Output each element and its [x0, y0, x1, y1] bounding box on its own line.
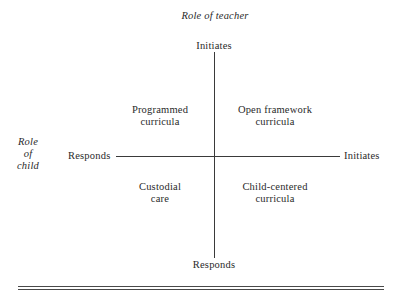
quadrant-top-left-line1: Programmed [120, 104, 200, 116]
vertical-axis-line [214, 52, 215, 258]
quadrant-top-right: Open framework curricula [225, 104, 325, 128]
quadrant-top-right-line1: Open framework [225, 104, 325, 116]
horizontal-axis-line [116, 156, 340, 157]
double-rule-bottom [18, 289, 384, 290]
quadrant-bottom-right-line1: Child-centered [225, 181, 325, 193]
quadrant-bottom-left-line2: care [120, 193, 200, 205]
quadrant-bottom-left: Custodial care [120, 181, 200, 205]
child-role-title-line2: of [8, 148, 48, 160]
horizontal-axis-right-label: Initiates [344, 150, 380, 162]
teacher-role-title: Role of teacher [150, 10, 280, 22]
quadrant-top-right-line2: curricula [225, 116, 325, 128]
child-role-title-line3: child [8, 160, 48, 172]
quadrant-bottom-right-line2: curricula [225, 193, 325, 205]
child-role-title-line1: Role [8, 136, 48, 148]
child-role-title: Role of child [8, 136, 48, 172]
quadrant-bottom-right: Child-centered curricula [225, 181, 325, 205]
quadrant-top-left: Programmed curricula [120, 104, 200, 128]
horizontal-axis-left-label: Responds [68, 150, 110, 162]
quadrant-bottom-left-line1: Custodial [120, 181, 200, 193]
vertical-axis-bottom-label: Responds [180, 259, 248, 271]
double-rule-top [18, 286, 384, 287]
vertical-axis-top-label: Initiates [184, 40, 244, 52]
quadrant-top-left-line2: curricula [120, 116, 200, 128]
